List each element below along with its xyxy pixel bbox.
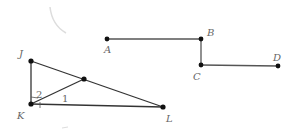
- path-abcd: A B C D: [103, 27, 281, 82]
- angle-2-label: 2: [36, 89, 42, 100]
- angle-1-label: 1: [62, 93, 68, 104]
- point-j: [28, 58, 33, 63]
- point-k: [28, 101, 33, 106]
- label-l: L: [165, 113, 173, 124]
- segment-kl: [31, 104, 163, 107]
- label-d: D: [272, 52, 281, 63]
- segment-jl: [31, 61, 163, 107]
- point-m: [81, 76, 86, 81]
- triangle-jkl: J K L 2 1: [16, 48, 173, 124]
- point-a: [105, 37, 110, 42]
- stray-arc-mark: [50, 7, 66, 33]
- label-c: C: [193, 71, 201, 82]
- label-k: K: [16, 110, 25, 121]
- point-c: [199, 63, 204, 68]
- geometry-diagram: J K L 2 1 A B C D: [0, 0, 294, 133]
- label-a: A: [103, 44, 111, 55]
- segment-cd: [201, 65, 278, 66]
- label-j: J: [17, 48, 24, 59]
- stray-mark: [62, 127, 68, 128]
- point-l: [160, 104, 165, 109]
- point-d: [276, 64, 281, 69]
- point-b: [199, 37, 204, 42]
- label-b: B: [206, 27, 214, 38]
